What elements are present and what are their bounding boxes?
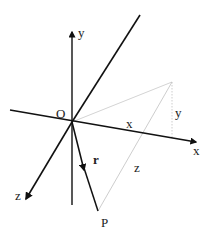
x-axis-label: x <box>193 143 200 158</box>
projection-line-origin <box>72 82 172 122</box>
diagram-svg: O y x z r P x y z <box>0 0 205 235</box>
z-component-label: z <box>134 160 140 175</box>
y-component-label: y <box>175 105 182 120</box>
vector-label: r <box>93 152 99 167</box>
x-component-label: x <box>126 116 133 131</box>
x-axis <box>10 110 196 142</box>
coordinate-diagram: O y x z r P x y z <box>0 0 205 235</box>
z-axis <box>26 122 72 199</box>
origin-label: O <box>56 106 65 121</box>
y-axis-label: y <box>78 25 85 40</box>
z-axis-label: z <box>15 188 21 203</box>
vector-r-line <box>84 168 98 211</box>
construction-lines <box>72 82 172 211</box>
projection-line-z <box>98 82 172 211</box>
vector-r-arrow <box>72 122 84 170</box>
point-label: P <box>101 215 108 230</box>
